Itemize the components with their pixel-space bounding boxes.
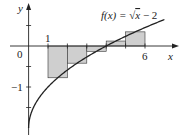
rectangle — [126, 32, 145, 46]
midpoint-rectangles — [48, 32, 145, 78]
x-axis-arrow-icon — [172, 44, 179, 49]
function-label: f(x) = √x − 2 — [101, 9, 157, 22]
y-tick-label-neg1: −1 — [11, 81, 23, 93]
y-axis-label: y — [17, 2, 23, 14]
rectangle — [67, 46, 86, 63]
rectangle — [106, 41, 125, 46]
origin-label: 0 — [17, 48, 23, 60]
rectangle — [87, 46, 106, 51]
x-axis-label: x — [167, 50, 173, 62]
y-axis-arrow-icon — [26, 3, 31, 10]
x-tick-label-6: 6 — [142, 50, 148, 62]
x-tick-label-1: 1 — [45, 32, 51, 44]
chart: y x 0 1 6 −1 f(x) = √x − 2 — [0, 0, 180, 139]
